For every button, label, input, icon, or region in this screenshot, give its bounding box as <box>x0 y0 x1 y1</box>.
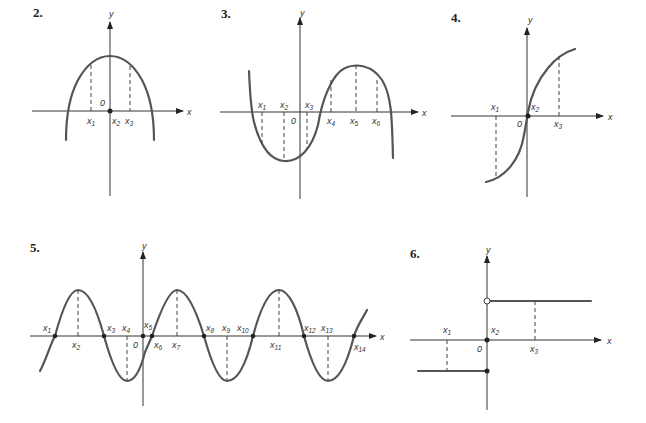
label-x1: x1 <box>42 323 52 334</box>
graph-2: 2. x y 0 x1 x2 x3 <box>32 5 192 196</box>
graph-6: 6. x y 0 x1 x2 x3 <box>410 245 612 410</box>
origin-label: 0 <box>291 116 296 126</box>
cubic-curve <box>249 66 393 162</box>
label-x3: x3 <box>304 100 314 111</box>
label-x14: x14 <box>353 342 366 353</box>
y-axis-label: y <box>141 241 147 251</box>
open-endpoint <box>484 298 490 304</box>
origin-label: 0 <box>517 119 522 129</box>
label-x1: x1 <box>86 116 96 127</box>
point-x2 <box>526 114 531 119</box>
label-x5: x5 <box>143 320 153 331</box>
label-x6: x6 <box>371 116 381 127</box>
x-axis-label: x <box>379 332 385 342</box>
origin-label: 0 <box>477 344 482 354</box>
label-x3: x3 <box>529 344 539 355</box>
point-x12 <box>302 334 307 339</box>
graph-number: 5. <box>30 240 40 255</box>
y-axis-label: y <box>485 245 491 255</box>
closed-endpoint <box>485 369 490 374</box>
label-x5: x5 <box>349 116 359 127</box>
y-axis-label: y <box>108 9 114 19</box>
label-x3: x3 <box>106 323 116 334</box>
label-x2: x2 <box>490 325 500 336</box>
graph-3: 3. x y 0 x1 x2 x3 x4 x5 x6 <box>220 6 427 199</box>
origin-label: 0 <box>133 340 138 350</box>
label-x3: x3 <box>553 119 563 130</box>
graph-number: 3. <box>221 6 231 21</box>
point-x6 <box>150 334 155 339</box>
graph-number: 6. <box>410 246 420 261</box>
point-x10 <box>251 334 256 339</box>
point-x1 <box>53 334 58 339</box>
figure-canvas: 2. x y 0 x1 x2 x3 3. x y 0 x1 x2 x3 x4 x… <box>0 0 646 423</box>
label-x13: x13 <box>320 323 333 334</box>
label-x1: x1 <box>442 325 452 336</box>
label-x7: x7 <box>171 340 181 351</box>
label-x1: x1 <box>257 100 267 111</box>
origin-label: 0 <box>100 98 105 108</box>
label-x11: x11 <box>269 340 282 351</box>
point-x14 <box>352 334 357 339</box>
graph-5: 5. x y 0 x1 x2 x3 x4 x5 x6 x7 x8 x9 x10 … <box>30 240 385 406</box>
point-x3 <box>102 334 107 339</box>
x-axis-label: x <box>186 107 192 117</box>
label-x2: x2 <box>530 102 540 113</box>
label-x4: x4 <box>121 323 131 334</box>
label-x1: x1 <box>490 102 500 113</box>
label-x12: x12 <box>303 323 316 334</box>
y-axis-label: y <box>299 8 305 18</box>
label-x8: x8 <box>205 323 215 334</box>
label-x6: x6 <box>153 340 163 351</box>
point-x8 <box>202 334 207 339</box>
label-x2: x2 <box>71 340 81 351</box>
x-axis-label: x <box>421 108 427 118</box>
y-axis-label: y <box>527 15 533 25</box>
label-x2: x2 <box>111 116 121 127</box>
graph-number: 2. <box>33 5 43 20</box>
label-x10: x10 <box>236 323 249 334</box>
x-axis-label: x <box>607 112 613 122</box>
point-x5 <box>141 334 146 339</box>
x-axis-label: x <box>606 336 612 346</box>
label-x9: x9 <box>221 323 231 334</box>
graph-4: 4. x y 0 x1 x2 x3 <box>451 10 613 197</box>
label-x2: x2 <box>279 100 289 111</box>
graph-number: 4. <box>451 10 461 25</box>
point-x2 <box>108 109 113 114</box>
label-x4: x4 <box>326 116 336 127</box>
label-x3: x3 <box>124 116 134 127</box>
point-x2 <box>485 338 490 343</box>
